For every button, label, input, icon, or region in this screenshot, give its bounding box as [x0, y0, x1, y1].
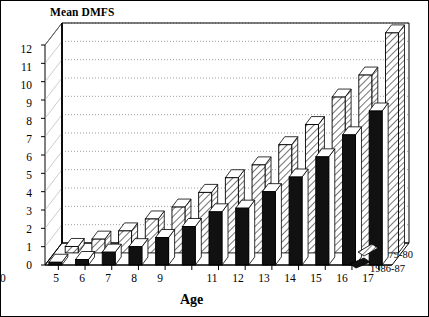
chart-figure: Mean DMFS Age 12 11 10 9 8 7 6 5 4 3 2 1…: [0, 0, 429, 317]
chart-plot-area: Mean DMFS Age 12 11 10 9 8 7 6 5 4 3 2 1…: [0, 0, 429, 317]
figure-border: [0, 0, 429, 317]
